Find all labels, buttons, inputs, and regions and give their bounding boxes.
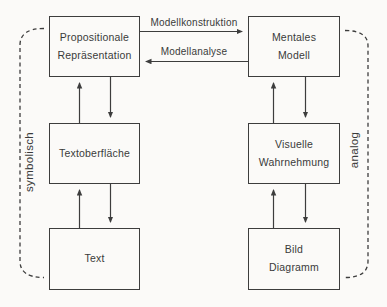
box-text-surface: Textoberfläche [49,123,140,184]
box-text: Text [49,228,140,290]
box-mental-model: Mentales Modell [248,16,340,77]
label-model-construction: Modellkonstruktion [140,17,248,30]
diagram-canvas: Propositionale Repräsentation Mentales M… [0,0,387,307]
box-propositional-representation: Propositionale Repräsentation [49,16,140,77]
label-analog: analog [348,105,362,195]
box-visual-perception: Visuelle Wahrnehmung [248,123,340,184]
label-symbolic: symbolisch [23,117,37,207]
label-model-analysis: Modellanalyse [140,46,248,59]
box-picture-diagram: Bild Diagramm [248,228,340,290]
